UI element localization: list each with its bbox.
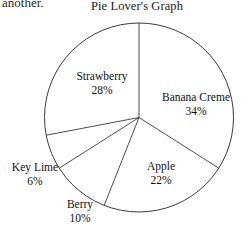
slice-label-strawberry-value: 28% [58, 84, 146, 98]
slice-label-apple-value: 22% [130, 174, 192, 188]
slice-label-banana-creme: Banana Creme 34% [150, 91, 242, 118]
slice-label-banana-creme-name: Banana Creme [162, 91, 230, 103]
slice-label-key-lime: Key Lime 6% [2, 161, 68, 188]
slice-label-berry-name: Berry [67, 198, 93, 210]
slice-label-apple-name: Apple [147, 160, 175, 172]
slice-label-berry-value: 10% [52, 212, 108, 226]
slice-label-berry: Berry 10% [52, 198, 108, 225]
slice-label-key-lime-name: Key Lime [12, 161, 58, 173]
pie-chart-figure: another. Pie Lover's Graph Strawberry 28… [0, 0, 248, 228]
slice-label-strawberry: Strawberry 28% [58, 70, 146, 97]
slice-label-apple: Apple 22% [130, 160, 192, 187]
slice-label-strawberry-name: Strawberry [76, 70, 127, 82]
slice-label-key-lime-value: 6% [2, 175, 68, 189]
slice-label-banana-creme-value: 34% [150, 105, 242, 119]
